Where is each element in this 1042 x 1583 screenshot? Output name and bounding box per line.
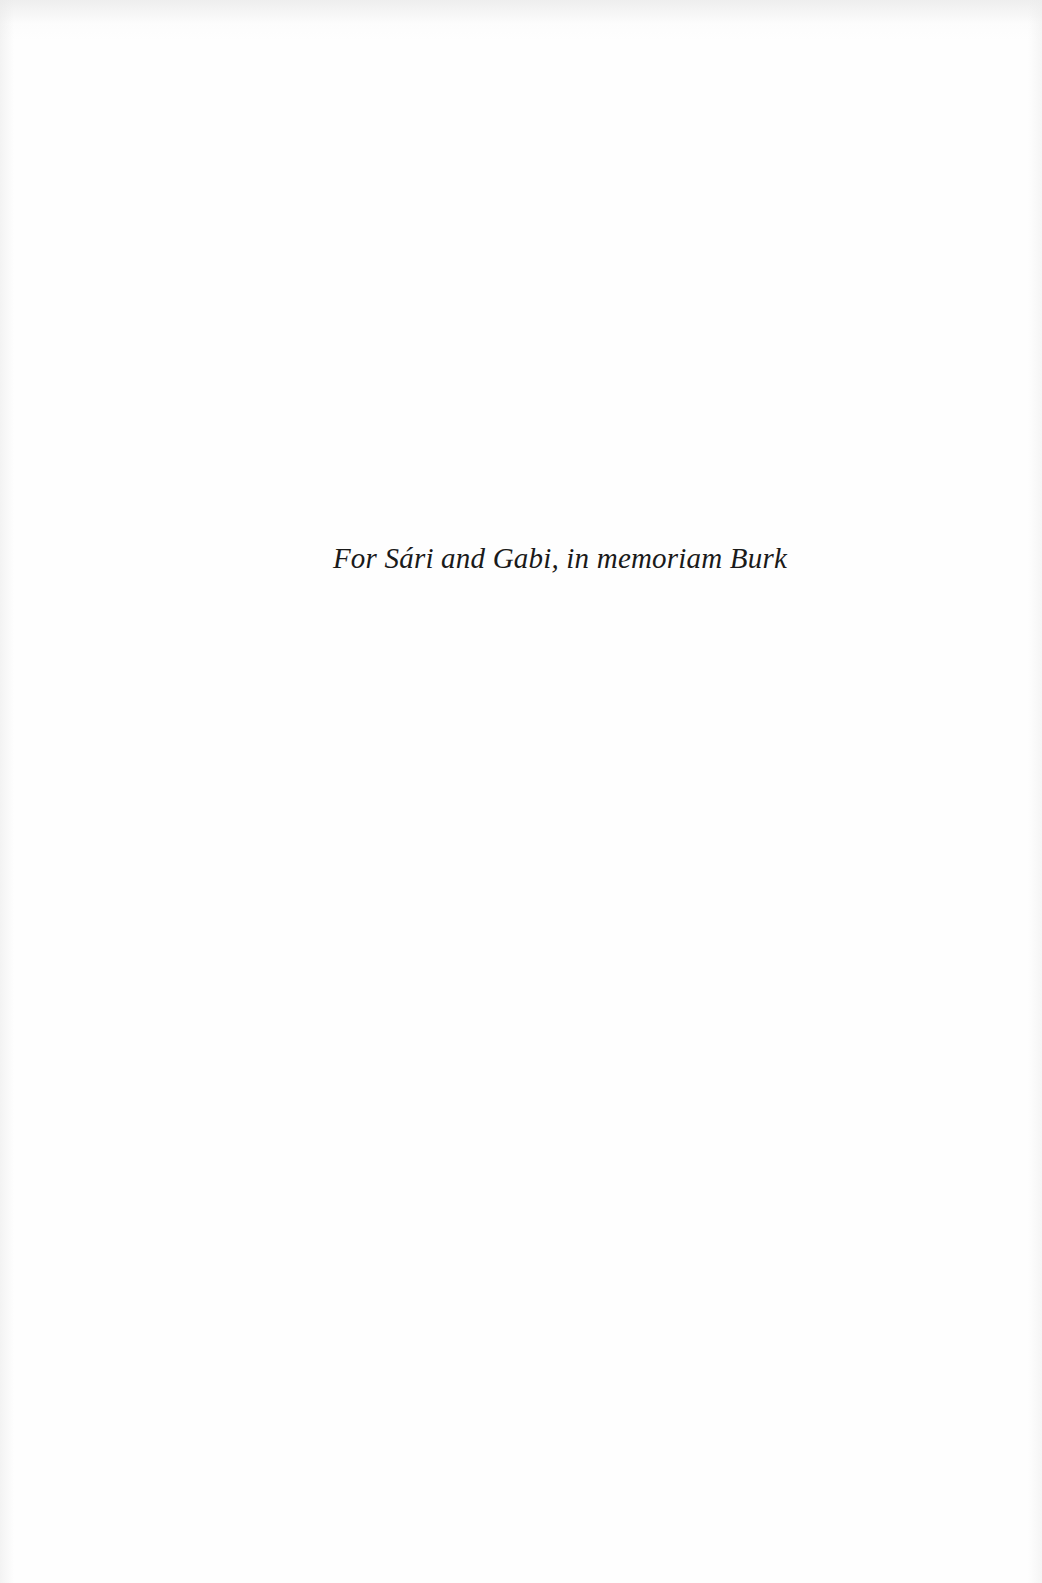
scan-edge-top [0,0,1042,40]
book-page: For Sári and Gabi, in memoriam Burk [0,0,1042,1583]
dedication-text: For Sári and Gabi, in memoriam Burk [0,540,1042,576]
scan-edge-left [0,0,14,1583]
scan-edge-right [1028,0,1042,1583]
